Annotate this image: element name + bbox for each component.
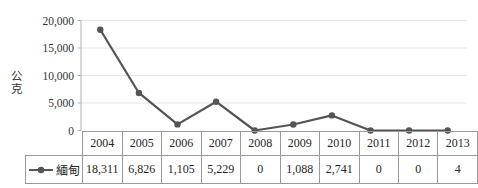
year-cell: 2004 (82, 132, 122, 156)
value-cell: 0 (359, 156, 398, 184)
year-cell: 2006 (162, 132, 202, 156)
value-cell: 5,229 (201, 156, 241, 184)
series-line-marker-icon (28, 165, 54, 175)
legend-cell: 緬甸 (26, 156, 83, 184)
value-cell: 6,826 (122, 156, 162, 184)
svg-text:20,000: 20,000 (42, 15, 74, 28)
value-cell: 0 (241, 156, 280, 184)
value-cell: 18,311 (82, 156, 122, 184)
table-row-years: 2004 2005 2006 2007 2008 2009 2010 2011 … (26, 132, 478, 156)
year-cell: 2011 (359, 132, 398, 156)
line-chart-with-data-table: 公克 05,00010,00015,00020,000 2004 2005 20… (0, 0, 478, 188)
svg-text:10,000: 10,000 (42, 70, 74, 83)
table-row-values: 緬甸 18,311 6,826 1,105 5,229 0 1,088 2,74… (26, 156, 478, 184)
value-cell: 2,741 (320, 156, 360, 184)
year-cell: 2010 (320, 132, 360, 156)
year-cell: 2005 (122, 132, 162, 156)
table-corner-blank (26, 132, 83, 156)
value-cell: 4 (438, 156, 478, 184)
year-cell: 2013 (438, 132, 478, 156)
svg-text:5,000: 5,000 (48, 97, 74, 110)
year-cell: 2008 (241, 132, 280, 156)
year-cell: 2009 (280, 132, 320, 156)
value-cell: 0 (398, 156, 437, 184)
value-cell: 1,088 (280, 156, 320, 184)
year-cell: 2007 (201, 132, 241, 156)
svg-text:15,000: 15,000 (42, 42, 74, 55)
value-cell: 1,105 (162, 156, 202, 184)
chart-data-table: 2004 2005 2006 2007 2008 2009 2010 2011 … (25, 131, 478, 184)
year-cell: 2012 (398, 132, 437, 156)
legend-series-label: 緬甸 (56, 161, 80, 179)
line-chart: 05,00010,00015,00020,000 (0, 0, 478, 135)
